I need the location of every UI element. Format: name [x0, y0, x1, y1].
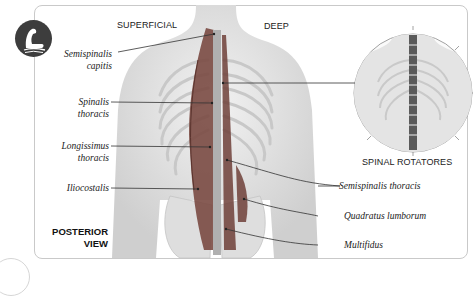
label-semispinalis-thoracis: Semispinalis thoracis [339, 180, 421, 192]
label-semispinalis-capitis: Semispinaliscapitis [40, 48, 112, 72]
posterior-view-label: POSTERIORVIEW [40, 226, 108, 250]
label-quadratus-lumborum: Quadratus lumborum [344, 210, 426, 222]
heading-deep: DEEP [264, 21, 289, 31]
label-multifidus: Multifidus [344, 239, 383, 251]
label-spinalis-thoracis: Spinalisthoracis [40, 96, 109, 120]
label-longissimus-thoracis: Longissimusthoracis [30, 140, 109, 164]
heading-spinal-rotatores: SPINAL ROTATORES [362, 157, 452, 167]
spine [213, 30, 221, 255]
label-iliocostalis: Iliocostalis [30, 182, 109, 194]
heading-superficial: SUPERFICIAL [117, 20, 177, 30]
